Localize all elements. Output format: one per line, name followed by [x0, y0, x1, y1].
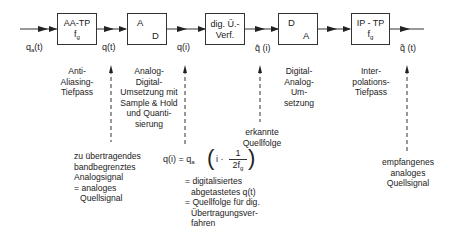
formula-inner: i · — [216, 154, 224, 164]
desc-line: Digital- — [116, 77, 182, 88]
signal-q-hat-i: q̂ (i) — [255, 43, 271, 53]
formula-numerator: 1 — [229, 148, 247, 158]
ip-tp-block: IP - TP fg — [351, 13, 390, 45]
desc-line: Quellfolge — [240, 138, 284, 149]
desc-line: polations- — [346, 77, 396, 88]
desc-line: und Quanti- — [116, 108, 182, 119]
desc-line: Analog- — [116, 66, 182, 77]
desc-line: empfangenes — [378, 157, 438, 168]
signal-qa-t: qa(t) — [26, 42, 43, 53]
desc-line: sierung — [116, 119, 182, 130]
signal-q-i: q(i) — [177, 42, 190, 52]
desc-line: Sample & Hold — [116, 98, 182, 109]
desc-line: setzung — [278, 98, 320, 109]
desc-line: Inter- — [346, 66, 396, 77]
formula-lhs: q(i) = qa — [163, 154, 195, 165]
ip-tp-title: IP - TP — [352, 18, 389, 28]
aa-tp-block: AA-TP fg — [57, 13, 97, 45]
da-bottom-letter: A — [303, 30, 309, 41]
ad-bottom-letter: D — [152, 30, 159, 41]
desc-line: Übertragungsver- — [185, 208, 260, 219]
desc-line: erkannte — [240, 127, 284, 138]
formula-denominator: 2fg — [229, 160, 247, 171]
desc-line: analoges — [378, 168, 438, 179]
formula-notes: = digitalisiertes abgetastetes q(t) = Qu… — [185, 176, 260, 229]
ad-converter-block: A D — [127, 13, 167, 45]
desc-line: Quellsignal — [74, 193, 141, 204]
dig-line2: Verf. — [206, 30, 244, 40]
aa-description: Anti- Aliasing- Tiefpass — [50, 66, 104, 98]
desc-line: = analoges — [74, 183, 141, 194]
digital-transmission-block: dig. Ü.- Verf. — [205, 13, 245, 45]
desc-line: Anti- — [50, 66, 104, 77]
left-paren: ( — [207, 146, 214, 170]
recognized-sequence-note: erkannte Quellfolge — [240, 127, 284, 148]
right-paren: ) — [248, 146, 255, 170]
desc-line: Umsetzung mit — [116, 87, 182, 98]
desc-line: = Quellfolge für dig. — [185, 197, 260, 208]
ad-top-letter: A — [137, 17, 143, 28]
aa-tp-param: fg — [58, 29, 96, 42]
desc-line: Tiefpass — [346, 87, 396, 98]
desc-line: abgetastetes q(t) — [185, 187, 260, 198]
desc-line: Tiefpass — [50, 87, 104, 98]
ad-description: Analog- Digital- Umsetzung mit Sample & … — [116, 66, 182, 130]
desc-line: zu übertragendes — [74, 151, 141, 162]
desc-line: Quellsignal — [378, 178, 438, 189]
desc-line: Analogsignal — [74, 172, 141, 183]
dig-line1: dig. Ü.- — [206, 19, 244, 29]
da-converter-block: D A — [278, 13, 318, 45]
signal-q-tilde-t: q̃ (t) — [400, 43, 416, 53]
desc-line: Um- — [278, 87, 320, 98]
signal-q-t: q(t) — [102, 42, 116, 52]
da-description: Digital- Analog- Um- setzung — [278, 66, 320, 108]
desc-line: = digitalisiertes — [185, 176, 260, 187]
da-top-letter: D — [288, 17, 295, 28]
desc-line: Aliasing- — [50, 77, 104, 88]
ip-tp-param: fg — [352, 29, 389, 42]
desc-line: bandbegrenztes — [74, 162, 141, 173]
desc-line: Analog- — [278, 77, 320, 88]
aa-tp-title: AA-TP — [58, 18, 96, 28]
input-signal-note: zu übertragendes bandbegrenztes Analogsi… — [74, 151, 141, 204]
desc-line: fahren — [185, 218, 260, 229]
desc-line: Digital- — [278, 66, 320, 77]
ip-description: Inter- polations- Tiefpass — [346, 66, 396, 98]
output-signal-note: empfangenes analoges Quellsignal — [378, 157, 438, 189]
